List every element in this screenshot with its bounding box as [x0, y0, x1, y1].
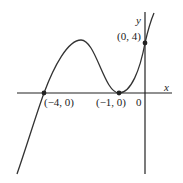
point-label-0-4: (0, 4)	[117, 30, 141, 43]
x-axis-label: x	[163, 81, 169, 93]
y-axis-label: y	[135, 14, 141, 26]
origin-label: 0	[136, 96, 142, 108]
point-0-4	[143, 41, 148, 46]
point-label-neg1-0: (−1, 0)	[96, 96, 126, 109]
point-neg4-0	[42, 91, 47, 96]
cubic-graph: y x (0, 4) (−4, 0) (−1, 0) 0	[0, 0, 183, 183]
point-neg1-0	[117, 91, 122, 96]
point-label-neg4-0: (−4, 0)	[44, 96, 74, 109]
